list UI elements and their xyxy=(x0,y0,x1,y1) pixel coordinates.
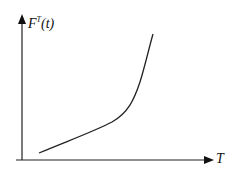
x-axis-label: T xyxy=(216,151,224,167)
y-label-main: F xyxy=(28,16,37,31)
x-axis-arrow-icon xyxy=(204,156,214,164)
y-label-arg: (t) xyxy=(41,16,54,31)
curve xyxy=(39,34,153,153)
y-axis-label: FT(t) xyxy=(28,15,54,32)
y-axis-arrow-icon xyxy=(18,14,26,24)
